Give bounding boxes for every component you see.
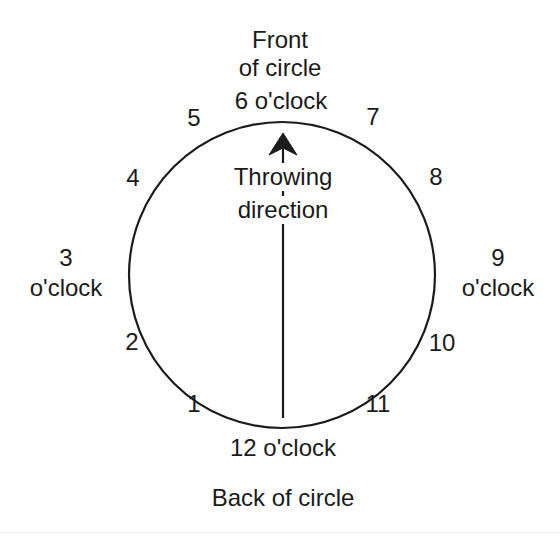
clock-number-5: 5 (187, 106, 200, 130)
left-clock-word: o'clock (30, 276, 103, 300)
diagram-canvas: Front of circle 6 o'clock Throwing direc… (0, 0, 560, 539)
clock-number-7: 7 (366, 105, 379, 129)
clock-number-4: 4 (126, 166, 139, 190)
back-oclock-label: 12 o'clock (230, 436, 336, 460)
right-clock-number: 9 (491, 246, 504, 270)
throwing-direction-line1: Throwing (234, 163, 333, 191)
clock-number-2: 2 (125, 330, 138, 354)
clock-number-11: 11 (366, 392, 391, 416)
bottom-divider (0, 532, 560, 533)
clock-number-8: 8 (429, 165, 442, 189)
throwing-direction-line2: direction (238, 196, 329, 224)
clock-number-10: 10 (429, 331, 456, 355)
right-clock-word: o'clock (462, 276, 535, 300)
left-clock-number: 3 (59, 246, 72, 270)
back-of-circle-label: Back of circle (212, 486, 355, 510)
clock-number-1: 1 (187, 392, 200, 416)
